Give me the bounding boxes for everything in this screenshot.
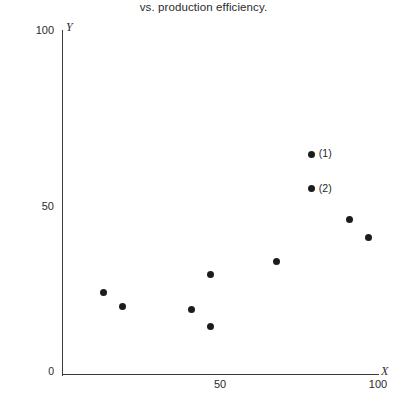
data-point xyxy=(188,306,195,313)
data-point xyxy=(119,303,126,310)
figure-caption: vs. production efficiency. xyxy=(0,0,407,14)
scatter-plot-figure: vs. production efficiency. Y X 100 50 0 … xyxy=(0,0,407,411)
x-tick-label-100: 100 xyxy=(358,378,398,390)
data-point xyxy=(308,185,315,192)
data-point xyxy=(207,271,214,278)
data-point xyxy=(207,323,214,330)
data-point xyxy=(365,234,372,241)
y-tick-label-0: 0 xyxy=(6,365,54,377)
x-axis-label: X xyxy=(381,364,388,379)
data-point xyxy=(346,216,353,223)
data-point-label: (1) xyxy=(319,147,332,159)
data-point xyxy=(100,289,107,296)
data-point xyxy=(273,258,280,265)
x-tick-label-50: 50 xyxy=(200,378,240,390)
y-tick-label-50: 50 xyxy=(6,200,54,212)
data-point xyxy=(308,151,315,158)
y-tick-label-100: 100 xyxy=(6,24,54,36)
plot-area: (1)(2) xyxy=(62,30,378,375)
data-point-label: (2) xyxy=(319,182,332,194)
